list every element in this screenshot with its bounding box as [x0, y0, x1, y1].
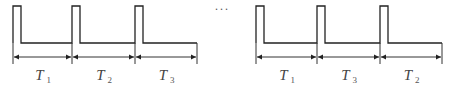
- arrowhead-right: [436, 55, 441, 60]
- waveform-right: [256, 6, 442, 43]
- period-subscript-right-0: 1: [291, 75, 296, 85]
- arrowhead-left: [381, 55, 386, 60]
- period-label-right-2: T: [404, 67, 414, 83]
- period-subscript-right-1: 3: [353, 75, 358, 85]
- period-label-right-1: T: [341, 67, 351, 83]
- period-subscript-left-2: 3: [170, 75, 175, 85]
- arrowhead-right: [374, 55, 379, 60]
- arrowhead-left: [14, 55, 19, 60]
- period-labels: T1T2T3T1T3T2: [35, 67, 419, 85]
- period-label-left-2: T: [159, 67, 169, 83]
- arrowhead-left: [318, 55, 323, 60]
- period-label-left-0: T: [35, 67, 45, 83]
- arrowhead-right: [66, 55, 71, 60]
- period-subscript-left-1: 2: [108, 75, 113, 85]
- period-subscript-right-2: 2: [415, 75, 420, 85]
- arrowhead-right: [311, 55, 316, 60]
- waveform-left: [13, 6, 197, 43]
- ellipsis: ···: [215, 2, 230, 16]
- period-label-left-1: T: [96, 67, 106, 83]
- arrowhead-left: [136, 55, 141, 60]
- period-label-right-0: T: [279, 67, 289, 83]
- arrowhead-right: [129, 55, 134, 60]
- period-subscript-left-0: 1: [47, 75, 52, 85]
- arrowhead-right: [191, 55, 196, 60]
- arrowhead-left: [73, 55, 78, 60]
- arrowhead-left: [257, 55, 262, 60]
- pulse-period-diagram: T1T2T3T1T3T2 ···: [0, 0, 455, 89]
- period-dimensions: [13, 43, 442, 64]
